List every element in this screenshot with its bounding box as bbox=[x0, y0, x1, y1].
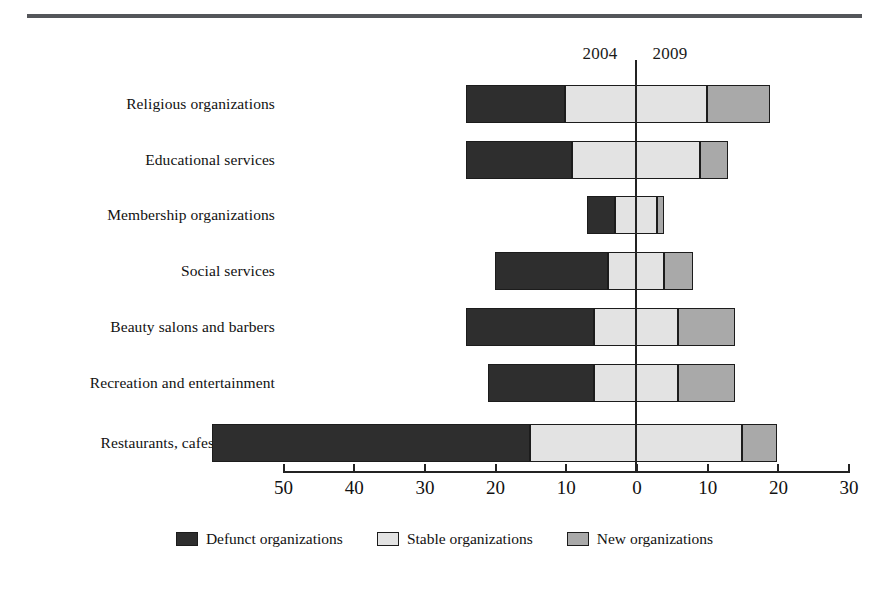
x-axis-tick bbox=[565, 464, 567, 473]
x-axis-tick bbox=[424, 464, 426, 473]
legend-item[interactable]: Defunct organizations bbox=[176, 530, 343, 548]
x-axis-tick bbox=[495, 464, 497, 473]
x-axis-tick-label: 30 bbox=[819, 477, 879, 499]
bar-segment-new bbox=[678, 364, 735, 402]
bar-segment-new bbox=[707, 85, 771, 123]
bar-segment-defunct bbox=[587, 196, 615, 234]
bar-segment-stable-2004 bbox=[565, 85, 636, 123]
zero-axis-line bbox=[635, 60, 637, 472]
x-axis-tick bbox=[777, 464, 779, 473]
bar-segment-defunct bbox=[466, 85, 565, 123]
chart-figure: 2004 2009 Religious organizationsEducati… bbox=[0, 0, 889, 589]
x-axis-tick-label: 20 bbox=[466, 477, 526, 499]
bar-segment-stable-2009 bbox=[636, 141, 700, 179]
chart-legend: Defunct organizationsStable organization… bbox=[0, 530, 889, 548]
bar-segment-stable-2009 bbox=[636, 252, 664, 290]
legend-label: Defunct organizations bbox=[206, 530, 343, 548]
x-axis-tick-label: 40 bbox=[324, 477, 384, 499]
bar-segment-new bbox=[700, 141, 728, 179]
bar-segment-stable-2009 bbox=[636, 308, 678, 346]
x-axis-tick-label: 30 bbox=[395, 477, 455, 499]
legend-item[interactable]: New organizations bbox=[567, 530, 713, 548]
x-axis-tick bbox=[848, 464, 850, 473]
bar-segment-stable-2009 bbox=[636, 196, 657, 234]
bar-segment-new bbox=[742, 424, 777, 462]
bar-segment-stable-2004 bbox=[572, 141, 636, 179]
legend-label: Stable organizations bbox=[407, 530, 533, 548]
legend-swatch-icon bbox=[377, 532, 399, 546]
x-axis-tick-label: 50 bbox=[254, 477, 314, 499]
x-axis-tick-label: 0 bbox=[607, 477, 667, 499]
bar-segment-new bbox=[678, 308, 735, 346]
legend-swatch-icon bbox=[176, 532, 198, 546]
x-axis-tick bbox=[283, 464, 285, 473]
x-axis-tick bbox=[353, 464, 355, 473]
bar-segment-stable-2009 bbox=[636, 364, 678, 402]
bar-segment-new bbox=[664, 252, 692, 290]
x-axis-tick bbox=[707, 464, 709, 473]
bar-segment-defunct bbox=[466, 141, 572, 179]
bar-segment-stable-2009 bbox=[636, 424, 742, 462]
bar-segment-defunct bbox=[495, 252, 608, 290]
legend-item[interactable]: Stable organizations bbox=[377, 530, 533, 548]
bar-segment-defunct bbox=[212, 424, 530, 462]
bar-segment-stable-2004 bbox=[615, 196, 636, 234]
plot-area bbox=[0, 0, 889, 589]
x-axis-tick-label: 20 bbox=[748, 477, 808, 499]
x-axis-tick bbox=[636, 464, 638, 473]
bar-segment-defunct bbox=[466, 308, 593, 346]
bar-segment-defunct bbox=[488, 364, 594, 402]
x-axis-tick-label: 10 bbox=[678, 477, 738, 499]
x-axis-tick-label: 10 bbox=[536, 477, 596, 499]
legend-swatch-icon bbox=[567, 532, 589, 546]
bar-segment-stable-2004 bbox=[530, 424, 636, 462]
bar-segment-stable-2004 bbox=[608, 252, 636, 290]
bar-segment-stable-2004 bbox=[594, 308, 636, 346]
bar-segment-stable-2004 bbox=[594, 364, 636, 402]
bar-segment-new bbox=[657, 196, 664, 234]
legend-label: New organizations bbox=[597, 530, 713, 548]
bar-segment-stable-2009 bbox=[636, 85, 707, 123]
